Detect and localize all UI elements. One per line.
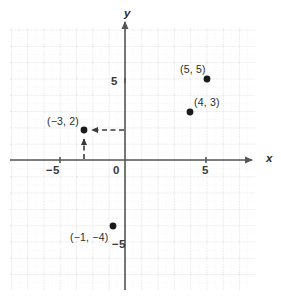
y-tick-label-neg5: −5 [112,239,126,251]
point-label-neg3-2: (−3, 2) [47,116,79,127]
data-point-neg3-2 [81,127,88,134]
data-point-4-3 [187,109,194,116]
x-tick-label-neg5: −5 [46,165,60,177]
point-label-4-3: (4, 3) [194,97,220,108]
y-tick-label-5: 5 [111,76,118,88]
point-label-5-5: (5, 5) [180,64,206,75]
x-axis-label: x [266,153,273,165]
major-grid [10,28,255,290]
x-tick-label-origin: 0 [113,165,120,177]
data-point-5-5 [204,76,211,83]
coordinate-plane-svg [0,0,281,299]
point-label-neg1-neg4: (−1, −4) [70,232,108,243]
data-point-neg1-neg4 [110,223,117,230]
y-axis-label: y [124,8,131,20]
x-tick-label-5: 5 [202,165,209,177]
coordinate-plane-figure: y x 5 −5 −5 0 5 (5, 5) (4, 3) (−3, 2) (−… [0,0,281,299]
grid-layer [10,28,255,290]
